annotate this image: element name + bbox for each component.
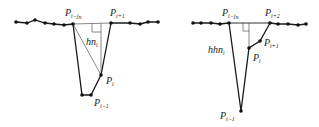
left-point-p-i-jn (71, 22, 75, 26)
right-label-p-i: Pi (252, 52, 261, 64)
right-label-p-i-jn: Pi−jn (221, 7, 239, 20)
right-right-angle-marker (243, 23, 249, 31)
left-label-p-i-minus-1: Pi−1 (93, 97, 109, 109)
right-point-p-i-minus-1 (239, 109, 243, 113)
right-vertices (191, 21, 308, 113)
left-vertices (14, 18, 160, 97)
left-point-p-i-minus-1 (89, 93, 93, 97)
left-chain-right (111, 22, 158, 24)
right-label-p-i-plus-2: Pi+2 (264, 7, 280, 19)
left-label-p-i: Pi (105, 75, 114, 87)
left-right-angle-marker (92, 24, 101, 32)
right-point-p-i-plus-1 (258, 39, 262, 43)
right-diagram: Pi−jn Pi+2 Pi+1 hhni Pi Pi−1 (191, 7, 308, 122)
right-label-p-i-plus-1: Pi+1 (263, 37, 279, 49)
right-point-p-i (247, 46, 251, 50)
left-label-height: hni (86, 36, 98, 48)
left-label-p-i-plus-1: Pi+1 (109, 7, 125, 19)
right-point-p-i-plus-2 (268, 21, 272, 25)
left-diagram: Pi−jn Pi+1 hni Pi Pi−1 (14, 7, 160, 109)
right-label-height: hhni (208, 44, 225, 56)
left-point-p-i (99, 73, 103, 77)
polyline-height-diagram: Pi−jn Pi+1 hni Pi Pi−1 (0, 0, 319, 127)
right-label-p-i-minus-1: Pi−1 (219, 110, 235, 122)
left-label-p-i-jn: Pi−jn (64, 7, 82, 20)
left-point-p-i-plus-1 (109, 21, 113, 25)
right-point-p-i-jn (227, 21, 231, 25)
